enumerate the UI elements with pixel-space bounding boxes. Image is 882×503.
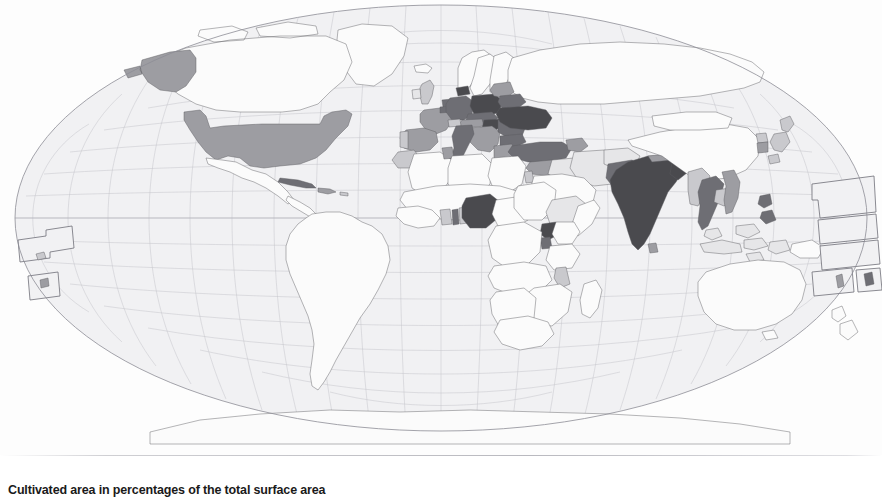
region-mongolia[interactable] (652, 112, 732, 130)
region-togo[interactable] (452, 209, 459, 225)
world-map-figure (0, 0, 882, 456)
region-south-korea[interactable] (757, 142, 768, 153)
inset-island-right-b[interactable] (864, 272, 874, 286)
region-ghana[interactable] (440, 209, 452, 225)
world-map-svg[interactable] (0, 0, 882, 456)
map-page: Cultivated area in percentages of the to… (0, 0, 882, 503)
pacific-insets-right (812, 176, 882, 296)
inset-island-left-b[interactable] (40, 278, 49, 288)
region-denmark[interactable] (456, 86, 470, 96)
region-sri-lanka[interactable] (648, 243, 658, 253)
region-portugal[interactable] (400, 131, 408, 149)
region-north-korea[interactable] (756, 133, 768, 143)
map-caption: Cultivated area in percentages of the to… (8, 483, 325, 497)
region-ireland[interactable] (412, 89, 421, 99)
